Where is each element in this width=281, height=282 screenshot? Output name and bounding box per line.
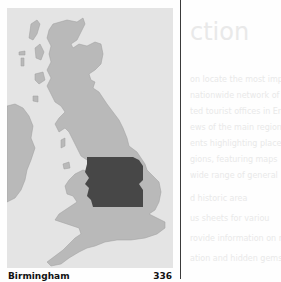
island-shape [35, 44, 44, 60]
show-through-text: ction on locate the most important c nat… [184, 0, 281, 279]
uk-locator-map [7, 8, 173, 268]
show-through-line: wide range of general [190, 171, 278, 180]
island-shape [29, 20, 40, 40]
ireland-shape [7, 104, 35, 202]
show-through-heading: ction [190, 18, 249, 46]
island-shape [35, 72, 45, 84]
show-through-line: nationwide network of informat [190, 91, 281, 100]
anglesey-shape [63, 162, 70, 169]
map-caption: Birmingham 336 [7, 270, 173, 282]
isle-of-man-shape [61, 138, 65, 148]
show-through-line: ents highlighting places of interes [190, 139, 281, 148]
show-through-line: us sheets for variou [190, 214, 269, 223]
island-shape [19, 51, 25, 55]
show-through-line: gions, featuring maps [190, 155, 278, 164]
region-name: Birmingham [8, 270, 70, 282]
show-through-line: ted tourist ofﬁces in England [190, 107, 281, 116]
island-shape [33, 96, 38, 102]
page-reference: 336 [153, 270, 172, 282]
column-divider [180, 0, 181, 279]
show-through-line: rovide information on regio [190, 234, 281, 243]
uk-map-graphic [7, 8, 173, 268]
show-through-line: d historic area [190, 194, 247, 203]
show-through-line: ation and hidden gems [190, 254, 281, 263]
show-through-line: on locate the most important c [190, 75, 281, 84]
birmingham-region-highlight [85, 157, 143, 207]
show-through-line: ews of the main regional attract [190, 123, 281, 132]
island-shape [21, 58, 24, 66]
